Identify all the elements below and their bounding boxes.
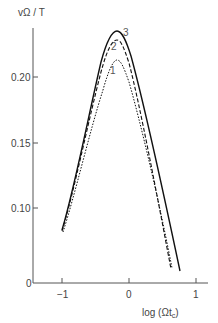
chart: vΩ / T 0.20 0.15 0.10 0 −1 0 1 log (Ωtc)… bbox=[0, 0, 218, 323]
y-tick-label: 0 bbox=[26, 278, 32, 289]
x-tick-label: 0 bbox=[126, 289, 132, 300]
x-axis-label: log (Ωtc) bbox=[142, 307, 179, 319]
y-tick-label: 0.20 bbox=[11, 72, 31, 83]
x-ticks: −1 0 1 bbox=[57, 278, 199, 300]
curve-2-label: 2 bbox=[111, 41, 117, 52]
y-tick-label: 0.15 bbox=[11, 138, 31, 149]
y-tick-label: 0.10 bbox=[11, 203, 31, 214]
curve-1-label: 1 bbox=[110, 65, 116, 76]
y-axis-label: vΩ / T bbox=[18, 7, 45, 18]
x-tick-label: 1 bbox=[193, 289, 199, 300]
y-ticks: 0.20 0.15 0.10 0 bbox=[11, 72, 38, 289]
x-tick-label: −1 bbox=[57, 289, 69, 300]
curve-3 bbox=[62, 31, 180, 271]
curve-3-label: 3 bbox=[123, 27, 129, 38]
